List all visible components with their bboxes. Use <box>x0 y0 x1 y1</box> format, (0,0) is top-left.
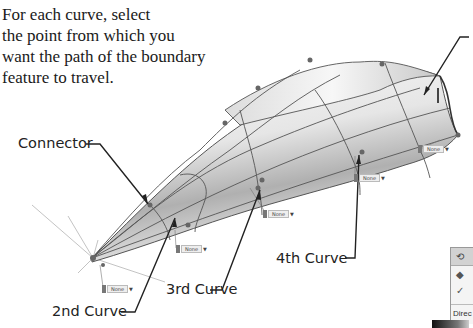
cursor-gradient-bar <box>432 320 469 328</box>
boundary-property-panel: ⟲ ◆ ✓ Direc <box>450 247 473 324</box>
checkmark-icon[interactable]: ✓ <box>451 282 473 298</box>
tag-swatch <box>418 145 422 153</box>
tag-label: None <box>268 210 289 218</box>
surface-icon[interactable]: ◆ <box>451 266 473 282</box>
panel-section-label: Direc <box>451 304 473 318</box>
start-point-dropdown[interactable]: None ▼ <box>176 245 207 253</box>
start-point-dropdown[interactable]: None ▼ <box>418 145 449 153</box>
tag-swatch <box>102 285 106 293</box>
start-point-dropdown[interactable]: None ▼ <box>263 210 294 218</box>
tag-label: None <box>181 245 202 253</box>
callout-2nd-curve: 2nd Curve <box>52 303 127 319</box>
callout-connector: Connector <box>18 135 93 151</box>
tag-swatch <box>263 210 267 218</box>
boundary-feature-icon[interactable]: ⟲ <box>451 248 473 266</box>
tag-label: None <box>359 174 380 182</box>
start-point-dropdown[interactable]: None ▼ <box>354 174 385 182</box>
tag-label: None <box>107 285 128 293</box>
start-point-dropdown[interactable]: None ▼ <box>102 285 133 293</box>
callout-4th-curve: 4th Curve <box>276 250 348 266</box>
chevron-down-icon: ▼ <box>129 286 133 292</box>
tag-swatch <box>354 174 358 182</box>
chevron-down-icon: ▼ <box>290 211 294 217</box>
chevron-down-icon: ▼ <box>381 175 385 181</box>
chevron-down-icon: ▼ <box>445 146 449 152</box>
chevron-down-icon: ▼ <box>203 246 207 252</box>
callout-3rd-curve: 3rd Curve <box>166 281 238 297</box>
tag-swatch <box>176 245 180 253</box>
tag-label: None <box>423 145 444 153</box>
